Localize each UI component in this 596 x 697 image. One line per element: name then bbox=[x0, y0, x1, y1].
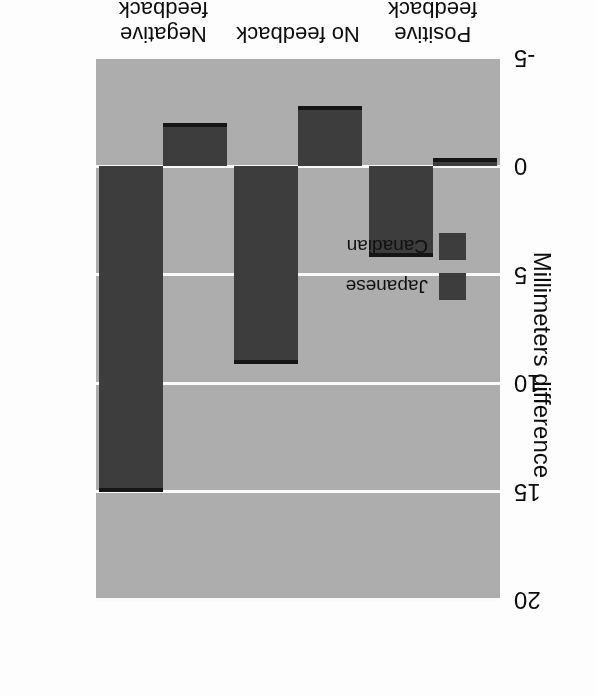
x-tick-label-line: No feedback bbox=[236, 21, 360, 46]
legend-swatch-canadian bbox=[439, 233, 466, 260]
rotated-figure: Japanese Canadian 20151050-5 Millimeters… bbox=[0, 0, 596, 697]
x-tick-label-line: feedback bbox=[388, 0, 477, 21]
bar-japanese-negative-feedback bbox=[163, 123, 227, 166]
legend-label-japanese: Japanese bbox=[346, 276, 428, 298]
x-tick-label-no-feedback: No feedback bbox=[236, 21, 360, 46]
legend-label-canadian: Canadian bbox=[347, 236, 428, 258]
y-axis-title: Millimeters difference bbox=[528, 125, 556, 605]
legend: Japanese Canadian bbox=[346, 233, 466, 300]
y-tick-label: 5 bbox=[514, 261, 527, 289]
bar-canadian-no-feedback bbox=[234, 166, 298, 363]
bar-japanese-no-feedback bbox=[298, 106, 362, 167]
legend-swatch-japanese bbox=[439, 273, 466, 300]
y-tick-label: 0 bbox=[514, 152, 527, 180]
bars-layer bbox=[96, 58, 500, 600]
x-axis: PositivefeedbackNo feedbackNegativefeedb… bbox=[96, 0, 500, 52]
legend-item-canadian: Canadian bbox=[346, 233, 466, 260]
plot-area: Japanese Canadian bbox=[96, 58, 500, 600]
legend-item-japanese: Japanese bbox=[346, 273, 466, 300]
x-tick-label-positive-feedback: Positivefeedback bbox=[388, 0, 477, 46]
x-tick-label-line: Negative bbox=[119, 21, 208, 46]
x-tick-label-line: Positive bbox=[388, 21, 477, 46]
x-tick-label-negative-feedback: Negativefeedback bbox=[119, 0, 208, 46]
x-tick-label-line: feedback bbox=[119, 0, 208, 21]
y-tick-label: -5 bbox=[514, 44, 535, 72]
bar-canadian-negative-feedback bbox=[99, 166, 163, 491]
bar-japanese-positive-feedback bbox=[433, 158, 497, 167]
